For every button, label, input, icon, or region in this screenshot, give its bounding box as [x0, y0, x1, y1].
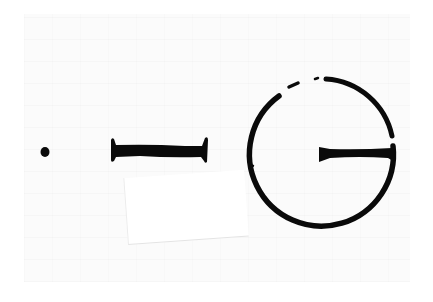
scanned-page — [0, 0, 433, 302]
ink-nub — [250, 165, 254, 166]
dot-symbol — [41, 147, 50, 157]
inner-line-symbol — [319, 146, 395, 162]
ink-symbols — [0, 0, 433, 302]
bar-symbol — [111, 137, 208, 162]
